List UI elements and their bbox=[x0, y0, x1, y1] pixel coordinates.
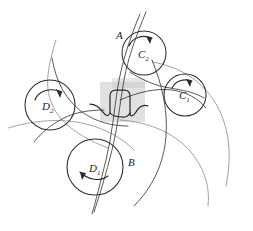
circle-d2-label-sub: 2 bbox=[50, 107, 54, 115]
shaded-contact-region-extension bbox=[112, 78, 145, 88]
circle-d1-label: D1 bbox=[88, 162, 100, 177]
label-curve-a: A bbox=[115, 29, 123, 41]
circle-d2-label-base: D bbox=[41, 100, 50, 112]
gear-tooth-contact-diagram: C2 C1 D2 D1 bbox=[0, 0, 253, 231]
circle-c1-label-sub: 1 bbox=[186, 96, 190, 104]
background-arc-left-upper bbox=[48, 40, 108, 148]
circle-c2-group: C2 bbox=[122, 31, 166, 75]
circle-d1-label-sub: 1 bbox=[97, 169, 101, 177]
label-curve-b: B bbox=[128, 156, 135, 168]
figure-canvas: C2 C1 D2 D1 bbox=[0, 0, 253, 231]
circle-d2-group: D2 bbox=[25, 80, 75, 130]
circle-c2-label-sub: 2 bbox=[145, 55, 149, 63]
circle-d2 bbox=[25, 80, 75, 130]
circle-d1-label-base: D bbox=[88, 162, 97, 174]
circle-d2-label: D2 bbox=[41, 100, 54, 115]
circle-c1-group: C1 bbox=[164, 74, 206, 116]
circle-d1-group: D1 bbox=[67, 139, 123, 195]
circle-c1-label: C1 bbox=[179, 89, 190, 104]
circle-c2-label: C2 bbox=[138, 48, 149, 63]
